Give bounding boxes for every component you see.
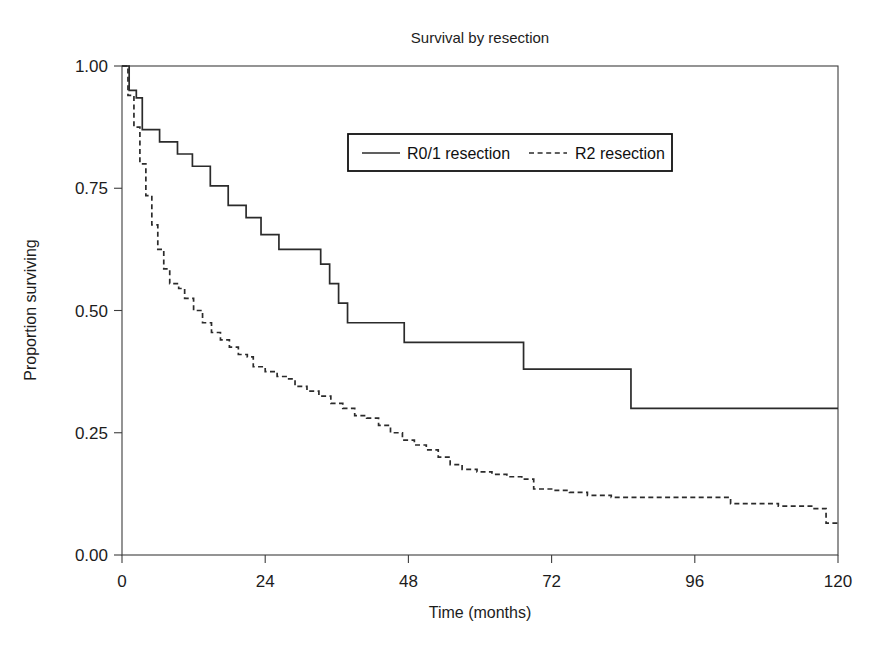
x-tick-label: 120: [824, 572, 852, 591]
y-tick-label: 0.00: [75, 546, 108, 565]
y-axis-ticks: 0.000.250.500.751.00: [75, 57, 122, 565]
chart-legend: R0/1 resection R2 resection: [348, 134, 672, 171]
x-tick-label: 24: [256, 572, 275, 591]
y-tick-label: 0.75: [75, 179, 108, 198]
y-tick-label: 0.25: [75, 424, 108, 443]
x-tick-label: 0: [117, 572, 126, 591]
x-axis-ticks: 024487296120: [117, 555, 852, 591]
x-tick-label: 72: [542, 572, 561, 591]
x-tick-label: 48: [399, 572, 418, 591]
kaplan-meier-plot: Survival by resection 0.000.250.500.751.…: [0, 0, 896, 649]
x-axis-label: Time (months): [429, 604, 532, 621]
legend-label-r01: R0/1 resection: [407, 145, 510, 162]
legend-label-r2: R2 resection: [575, 145, 665, 162]
survival-chart-figure: Survival by resection 0.000.250.500.751.…: [0, 0, 896, 649]
chart-title: Survival by resection: [411, 29, 549, 46]
curve-r01-resection: [122, 66, 838, 408]
y-axis-label: Proportion surviving: [22, 239, 39, 380]
y-tick-label: 0.50: [75, 302, 108, 321]
y-tick-label: 1.00: [75, 57, 108, 76]
x-tick-label: 96: [685, 572, 704, 591]
